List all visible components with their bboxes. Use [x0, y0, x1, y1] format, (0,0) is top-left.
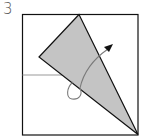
origami-diagram	[0, 0, 144, 139]
